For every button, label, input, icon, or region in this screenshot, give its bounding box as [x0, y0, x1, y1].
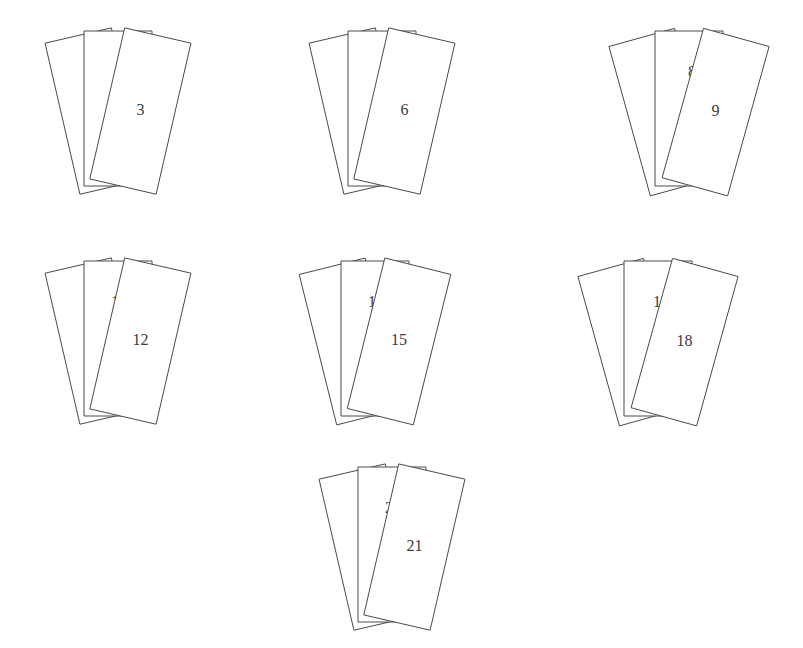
card-number-label: 9 [712, 102, 720, 119]
groups-layer: 123456789101112131415161718192021 [45, 28, 769, 630]
card-group: 789 [609, 28, 769, 196]
card-group: 101112 [45, 258, 191, 424]
card-group: 456 [309, 28, 455, 194]
card-group: 131415 [299, 258, 451, 425]
card-group: 123 [45, 28, 191, 194]
card-number-label: 18 [677, 332, 693, 349]
figure-root: 123456789101112131415161718192021 [0, 0, 803, 648]
card-number-label: 21 [406, 537, 422, 554]
card-number-label: 15 [391, 331, 407, 348]
card-group: 192021 [319, 464, 465, 630]
card-group: 161718 [578, 258, 738, 426]
card-fan-figure: 123456789101112131415161718192021 [0, 0, 803, 648]
card-number-label: 3 [136, 101, 144, 118]
card-number-label: 12 [132, 331, 148, 348]
card-number-label: 6 [400, 101, 408, 118]
